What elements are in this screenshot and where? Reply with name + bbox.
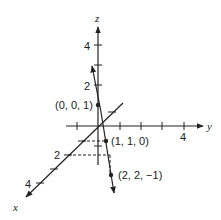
point-2-2-neg1: (2, 2, −1) <box>109 169 163 181</box>
z-axis: z 4 2 <box>84 12 102 165</box>
point-label-2-2-neg1: (2, 2, −1) <box>118 169 162 181</box>
point-1-1-0: (1, 1, 0) <box>104 135 149 147</box>
y-tick-4: 4 <box>180 131 186 143</box>
x-axis: x 2 4 <box>12 103 123 213</box>
x-tick-2: 2 <box>54 149 60 161</box>
z-tick-4: 4 <box>84 40 90 52</box>
z-axis-label: z <box>94 12 100 24</box>
3d-line-diagram: z 4 2 y 4 x 2 4 (0, 0, 1) <box>0 0 221 220</box>
z-tick-2: 2 <box>84 80 90 92</box>
x-axis-label: x <box>12 201 18 213</box>
y-axis-label: y <box>206 120 212 132</box>
point-label-1-1-0: (1, 1, 0) <box>111 135 149 147</box>
point-0-0-1: (0, 0, 1) <box>55 99 100 111</box>
x-tick-4: 4 <box>25 178 31 190</box>
point-label-0-0-1: (0, 0, 1) <box>55 99 93 111</box>
projection-guides <box>68 141 110 175</box>
